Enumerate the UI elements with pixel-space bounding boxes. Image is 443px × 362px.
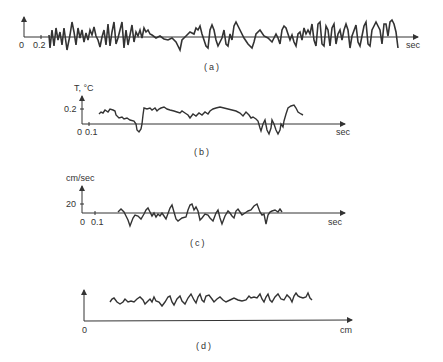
panel-c-y-tick-label: 20 bbox=[66, 200, 76, 209]
panel-c-x-tick-label: 0.1 bbox=[91, 218, 104, 227]
panel-b-y-unit: T, °C bbox=[74, 84, 94, 93]
panel-b-y-tick-label: 0.2 bbox=[64, 105, 77, 114]
panel-a-x-tick-label: 0.2 bbox=[33, 41, 46, 50]
panel-b-x-unit: sec bbox=[336, 128, 350, 137]
panel-d-x-axis bbox=[84, 320, 352, 321]
panel-c-signal bbox=[118, 204, 282, 226]
panel-c-y-unit: cm/sec bbox=[66, 174, 95, 183]
panel-b-origin-tick-label: 0 bbox=[77, 128, 82, 137]
panel-d bbox=[84, 290, 352, 321]
panel-b-signal bbox=[99, 105, 303, 134]
panel-a bbox=[24, 17, 418, 50]
panel-a-origin-tick-label: 0 bbox=[19, 41, 24, 50]
panel-d-x-unit: cm bbox=[340, 326, 352, 335]
panel-a-signal bbox=[49, 20, 398, 50]
panel-c bbox=[80, 186, 345, 226]
panel-b-x-tick-label: 0.1 bbox=[85, 128, 98, 137]
panel-c-caption: (c) bbox=[190, 239, 207, 248]
panel-c-x-unit: sec bbox=[328, 218, 342, 227]
panel-a-x-unit: sec bbox=[406, 41, 420, 50]
panel-c-origin-tick-label: 0 bbox=[80, 218, 85, 227]
panel-b-caption: (b) bbox=[194, 148, 211, 157]
panel-a-caption: (a) bbox=[204, 63, 221, 72]
panel-b bbox=[80, 96, 345, 134]
panel-d-caption: (d) bbox=[196, 342, 213, 351]
panel-d-origin-tick-label: 0 bbox=[82, 326, 87, 335]
panel-d-signal bbox=[110, 293, 312, 306]
